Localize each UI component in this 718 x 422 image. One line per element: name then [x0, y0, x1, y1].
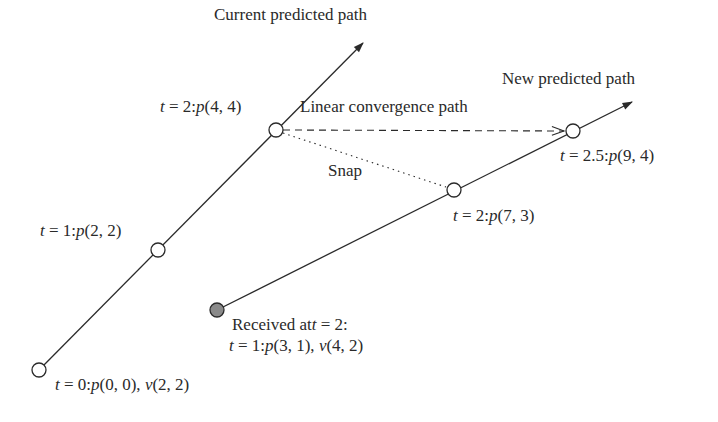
label-current-t2: t = 2:p(4, 4) [160, 98, 241, 115]
coords: (9, 4) [617, 146, 654, 165]
title-current-path: Current predicted path [214, 6, 367, 23]
label-text: = 2: [165, 97, 196, 116]
coords: (4, 4) [205, 97, 242, 116]
label-text: = 2: [458, 206, 489, 225]
point-new-t2-5 [566, 124, 580, 138]
p-symbol: p [489, 206, 498, 225]
label-text: = 2.5: [565, 146, 609, 165]
convergence-path-line [283, 130, 564, 131]
point-current-t1 [151, 243, 165, 257]
point-new-t2 [447, 183, 461, 197]
label-received-line1: Received att = 2: [232, 316, 348, 333]
p-symbol: p [91, 375, 100, 394]
label-text: Received at [232, 315, 312, 334]
label-convergence-path: Linear convergence path [300, 98, 468, 115]
label-new-t2: t = 2:p(7, 3) [453, 207, 534, 224]
point-received [210, 303, 224, 317]
label-snap: Snap [328, 162, 362, 179]
coords: (0, 0), [100, 375, 145, 394]
coords: (7, 3) [498, 206, 535, 225]
label-current-t0: t = 0:p(0, 0), v(2, 2) [55, 376, 189, 393]
snap-line [283, 133, 446, 187]
label-text: = 0: [60, 375, 91, 394]
p-symbol: p [76, 221, 85, 240]
coords: (2, 2) [85, 221, 122, 240]
vcoords: (4, 2) [326, 336, 363, 355]
point-current-t0 [32, 363, 46, 377]
label-received-line2: t = 1:p(3, 1), v(4, 2) [229, 337, 363, 354]
title-new-path: New predicted path [502, 70, 635, 87]
label-text: = 1: [45, 221, 76, 240]
diagram-canvas [0, 0, 718, 422]
label-new-t2-5: t = 2.5:p(9, 4) [560, 147, 654, 164]
label-current-t1: t = 1:p(2, 2) [40, 222, 121, 239]
label-text: = 1: [234, 336, 265, 355]
coords: (3, 1), [274, 336, 319, 355]
label-text: = 2: [317, 315, 348, 334]
p-symbol: p [265, 336, 274, 355]
vcoords: (2, 2) [152, 375, 189, 394]
p-symbol: p [196, 97, 205, 116]
point-current-t2 [269, 123, 283, 137]
